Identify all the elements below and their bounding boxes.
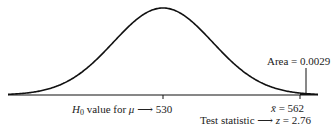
mu-symbol: μ: [129, 103, 135, 115]
normal-curve: [8, 8, 318, 94]
test-statistic-label: Test statistic ⟶ z = 2.76: [200, 114, 311, 126]
xbar-label: x̄ = 562: [271, 102, 304, 114]
area-label: Area = 0.0029: [267, 55, 330, 67]
arrow-icon: ⟶: [257, 114, 273, 126]
mean-value: 530: [156, 103, 173, 115]
h0-mean-label: H0 value for μ ⟶ 530: [72, 103, 172, 115]
h0-symbol: H: [72, 103, 80, 115]
xbar-value: = 562: [276, 102, 304, 114]
z-value: = 2.76: [280, 114, 311, 126]
test-stat-text: Test statistic: [200, 114, 255, 126]
h0-text: value for: [84, 103, 129, 115]
arrow-icon: ⟶: [137, 103, 153, 115]
